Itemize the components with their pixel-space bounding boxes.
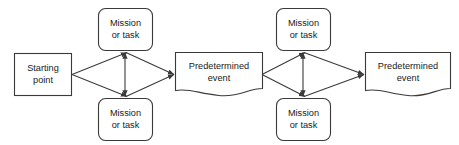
edge-event-1-to-mission-2-bottom (262, 75, 305, 97)
edge-mission-2-bottom-to-event-2 (304, 75, 364, 97)
node-mission-2-bottom-label-line1: Mission (288, 108, 319, 118)
edge-mission-1-bottom-to-event-1 (126, 75, 174, 97)
edge-event-1-to-mission-2-top (262, 53, 305, 75)
node-event-1-label-line2: event (208, 73, 231, 83)
node-mission-2-top-label-line2: or task (290, 30, 318, 40)
flowchart-diagram: Starting point Mission or task Mission o… (0, 0, 459, 145)
node-start-label-line2: point (33, 75, 53, 85)
node-event-2-label-line1: Predetermined (378, 61, 438, 71)
node-mission-2-top-label-line1: Mission (288, 18, 319, 28)
node-mission-2-bottom[interactable]: Mission or task (277, 99, 331, 141)
node-event-1-label-line1: Predetermined (189, 61, 249, 71)
node-mission-2-top[interactable]: Mission or task (277, 9, 331, 51)
node-event-2[interactable]: Predetermined event (366, 53, 451, 96)
edge-start-to-mission-1-bottom (72, 75, 127, 97)
edge-mission-2-top-to-event-2 (304, 53, 364, 75)
node-start[interactable]: Starting point (15, 54, 72, 96)
node-mission-1-bottom-label-line2: or task (112, 120, 140, 130)
flowchart-canvas: Starting point Mission or task Mission o… (0, 0, 459, 145)
node-mission-1-bottom[interactable]: Mission or task (99, 99, 153, 141)
node-mission-2-bottom-label-line2: or task (290, 120, 318, 130)
node-mission-1-top[interactable]: Mission or task (99, 9, 153, 51)
node-event-2-label-line2: event (397, 73, 420, 83)
node-mission-1-bottom-label-line1: Mission (110, 108, 141, 118)
node-start-label-line1: Starting (27, 63, 59, 73)
node-mission-1-top-label-line1: Mission (110, 18, 141, 28)
node-mission-1-top-label-line2: or task (112, 30, 140, 40)
node-event-1[interactable]: Predetermined event (176, 53, 263, 96)
edge-mission-1-top-to-event-1 (126, 53, 174, 75)
edge-start-to-mission-1-top (72, 53, 127, 75)
